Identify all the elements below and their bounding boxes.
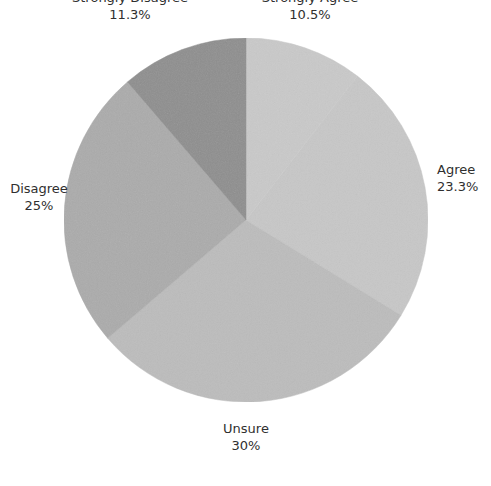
pie-svg: [64, 38, 428, 402]
pie-chart-figure: Strongly Disagree 11.3% Strongly Agree 1…: [0, 0, 491, 486]
slice-label-unsure: Unsure 30%: [196, 420, 296, 454]
pie-plot-area: [64, 38, 428, 402]
pie-slice-group: [64, 38, 428, 402]
slice-label-disagree-value: 25%: [2, 197, 76, 214]
slice-label-strongly-agree: Strongly Agree 10.5%: [240, 0, 380, 23]
slice-label-agree-value: 23.3%: [437, 178, 491, 195]
slice-label-disagree: Disagree 25%: [2, 180, 76, 214]
slice-label-unsure-value: 30%: [196, 437, 296, 454]
slice-label-strongly-agree-value: 10.5%: [240, 6, 380, 23]
slice-label-strongly-disagree: Strongly Disagree 11.3%: [30, 0, 230, 23]
slice-label-unsure-name: Unsure: [196, 420, 296, 437]
slice-label-disagree-name: Disagree: [2, 180, 76, 197]
slice-label-agree: Agree 23.3%: [437, 161, 491, 195]
slice-label-strongly-disagree-value: 11.3%: [30, 6, 230, 23]
slice-label-agree-name: Agree: [437, 161, 491, 178]
